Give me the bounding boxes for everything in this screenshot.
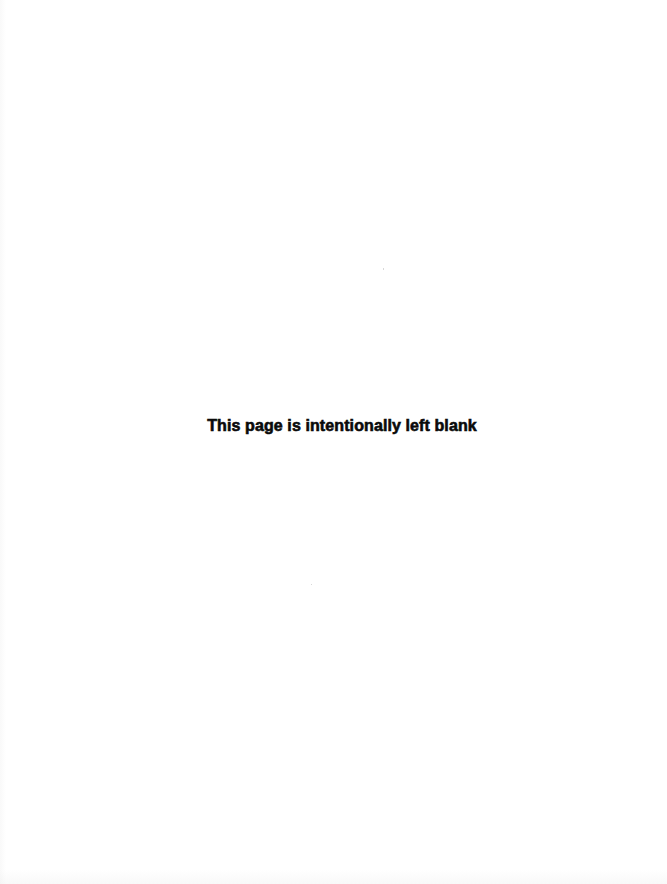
scan-speck xyxy=(383,268,384,270)
scan-speck xyxy=(311,584,312,585)
scan-edge-shadow-left xyxy=(0,0,6,884)
scan-edge-shadow-bottom xyxy=(0,870,667,884)
intentionally-blank-notice: This page is intentionally left blank xyxy=(0,416,667,436)
blank-document-page: This page is intentionally left blank xyxy=(0,0,667,884)
